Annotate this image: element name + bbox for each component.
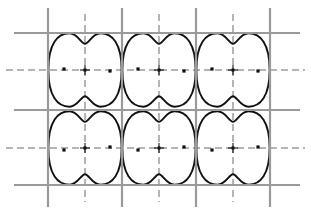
site-dot-marker-6 bbox=[256, 69, 259, 72]
site-dot-marker-2 bbox=[108, 69, 111, 72]
cross-marker-6-center bbox=[232, 147, 235, 150]
cross-marker-4-center bbox=[84, 147, 87, 150]
cross-marker-3-center bbox=[232, 69, 235, 72]
site-dot-marker-11 bbox=[210, 148, 213, 151]
site-dot-marker-3 bbox=[136, 67, 139, 70]
cross-marker-2-center bbox=[158, 69, 161, 72]
site-dot-marker-7 bbox=[62, 148, 65, 151]
site-dot-marker-9 bbox=[136, 148, 139, 151]
site-dot-marker-1 bbox=[62, 67, 65, 70]
site-dot-marker-12 bbox=[256, 145, 259, 148]
site-dot-marker-8 bbox=[108, 145, 111, 148]
site-dot-marker-10 bbox=[182, 145, 185, 148]
site-dot-marker-5 bbox=[210, 67, 213, 70]
cross-marker-1-center bbox=[84, 69, 87, 72]
site-dot-marker-4 bbox=[182, 69, 185, 72]
domain-tiling-diagram bbox=[0, 0, 311, 215]
figure-root bbox=[0, 0, 311, 215]
cross-marker-5-center bbox=[158, 147, 161, 150]
